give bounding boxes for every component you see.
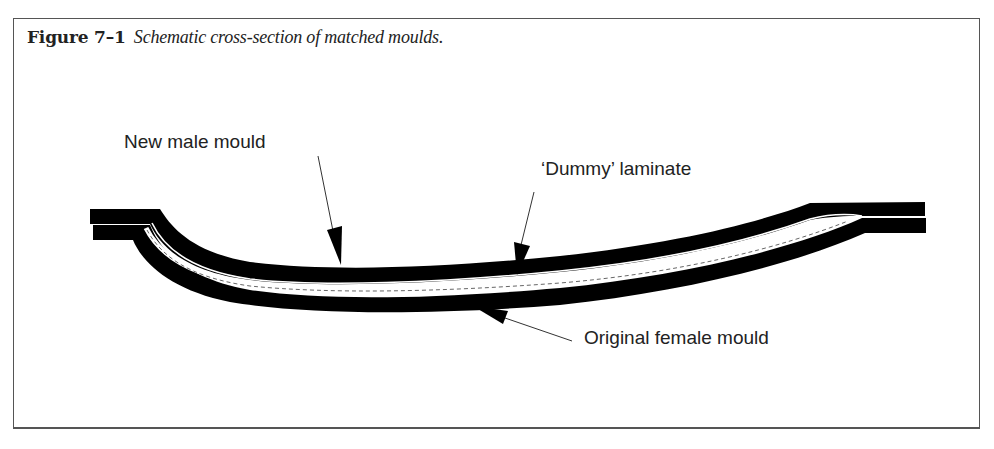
female-mould-label: Original female mould	[584, 327, 769, 349]
male-mould-leader-line	[318, 156, 334, 236]
male-mould-label: New male mould	[124, 131, 266, 153]
dummy-laminate-label: ‘Dummy’ laminate	[541, 158, 691, 180]
female-mould-leader-line	[505, 318, 572, 341]
male-mould-arrowhead	[327, 226, 342, 265]
dummy-laminate-leader-line	[521, 192, 534, 245]
mould-cross-section-diagram	[0, 0, 994, 449]
